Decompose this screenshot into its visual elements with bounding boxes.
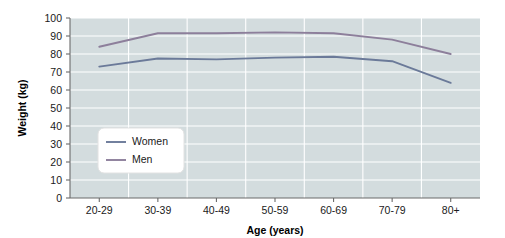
legend-label-women: Women [132,135,168,147]
x-tick-label: 30-39 [144,204,171,216]
x-tick-label: 80+ [442,204,460,216]
weight-by-age-line-chart: 010203040506070809010020-2930-3940-4950-… [0,0,505,238]
y-tick-label: 90 [50,30,62,42]
y-tick-label: 70 [50,66,62,78]
legend: WomenMen [98,128,184,173]
y-tick-label: 10 [50,174,62,186]
x-axis-title: Age (years) [246,224,303,236]
y-tick-label: 100 [44,12,62,24]
y-axis-title: Weight (kg) [16,80,28,137]
y-tick-label: 40 [50,120,62,132]
x-tick-label: 70-79 [379,204,406,216]
y-tick-label: 30 [50,138,62,150]
x-tick-label: 60-69 [320,204,347,216]
x-tick-label: 50-59 [262,204,289,216]
legend-label-men: Men [132,153,153,165]
y-tick-label: 60 [50,84,62,96]
y-axis-ticks: 0102030405060708090100 [44,12,70,204]
chart-canvas: 010203040506070809010020-2930-3940-4950-… [0,0,505,238]
x-axis-ticks: 20-2930-3940-4950-5960-6970-7980+ [86,198,460,216]
x-tick-label: 20-29 [86,204,113,216]
y-tick-label: 20 [50,156,62,168]
y-tick-label: 50 [50,102,62,114]
y-tick-label: 0 [56,192,62,204]
x-tick-label: 40-49 [203,204,230,216]
y-tick-label: 80 [50,48,62,60]
